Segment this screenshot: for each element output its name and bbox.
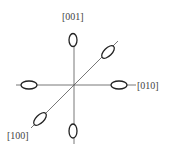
label-001: [001] xyxy=(62,11,84,22)
label-010: [010] xyxy=(137,80,159,91)
ellipse-bottom xyxy=(69,124,77,138)
ellipse-top xyxy=(69,34,77,47)
ellipse-diag-upper xyxy=(100,44,117,61)
ellipse-diag-lower xyxy=(32,111,49,128)
ellipse-right xyxy=(111,81,127,89)
label-100: [100] xyxy=(7,130,29,141)
ellipse-left xyxy=(21,81,37,89)
crystal-axes-diagram: [001] [010] [100] xyxy=(0,0,171,154)
